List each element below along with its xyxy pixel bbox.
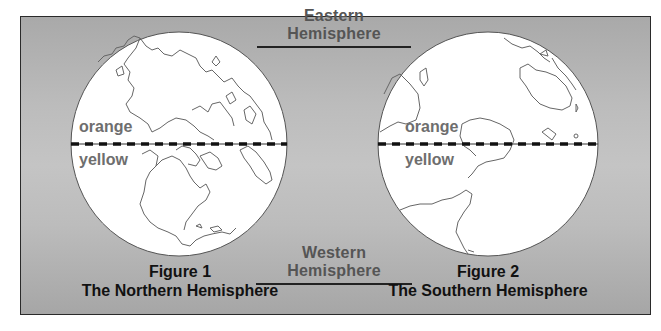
southern-hemisphere-globe (378, 32, 598, 256)
figure1-number: Figure 1 (60, 262, 300, 281)
eastern-hemisphere-text: Eastern Hemisphere (287, 7, 381, 42)
figure2-lower-label: yellow (405, 151, 454, 169)
figure2-upper-label: orange (405, 118, 458, 136)
eastern-hemisphere-label: Eastern Hemisphere (257, 7, 411, 48)
figure1-caption: Figure 1 The Northern Hemisphere (60, 262, 300, 300)
northern-hemisphere-globe (71, 32, 287, 256)
figure2-number: Figure 2 (368, 262, 608, 281)
figure2-caption: Figure 2 The Southern Hemisphere (368, 262, 608, 300)
figure1-lower-label: yellow (79, 151, 128, 169)
eastern-underline (257, 46, 411, 48)
figure1-title: The Northern Hemisphere (60, 281, 300, 300)
figure2-title: The Southern Hemisphere (368, 281, 608, 300)
figure1-upper-label: orange (79, 118, 132, 136)
western-hemisphere-text: Western Hemisphere (287, 244, 381, 279)
